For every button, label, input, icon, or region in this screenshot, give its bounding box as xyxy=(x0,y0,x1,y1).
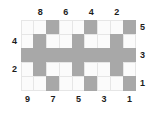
left-label-row-4: 2 xyxy=(3,65,17,74)
grid-cell xyxy=(123,62,137,77)
bottom-label-col-1: 9 xyxy=(21,95,34,104)
grid-cell xyxy=(84,76,98,91)
grid-cell xyxy=(110,34,124,49)
grid-cell xyxy=(72,76,86,91)
top-label-col-8: 2 xyxy=(110,8,123,17)
grid-cell xyxy=(72,62,86,77)
grid-cell xyxy=(33,62,47,77)
grid-cell xyxy=(123,48,137,63)
grid-cell xyxy=(97,20,111,35)
grid-cell xyxy=(97,62,111,77)
grid-cell xyxy=(46,34,60,49)
grid-cell xyxy=(33,76,47,91)
grid-cell xyxy=(59,48,73,63)
top-label-col-6: 4 xyxy=(85,8,98,17)
right-label-row-1: 5 xyxy=(140,23,154,32)
grid-cell xyxy=(72,48,86,63)
top-label-col-4: 6 xyxy=(59,8,72,17)
right-label-row-3: 3 xyxy=(140,51,154,60)
grid-cell xyxy=(123,34,137,49)
grid-cell xyxy=(21,48,35,63)
grid-cell xyxy=(110,76,124,91)
grid-cell xyxy=(72,34,86,49)
grid-cell xyxy=(59,20,73,35)
bottom-label-col-7: 3 xyxy=(98,95,111,104)
grid-cell xyxy=(123,76,137,91)
grid-cell xyxy=(72,20,86,35)
grid-cell xyxy=(84,20,98,35)
grid-cell xyxy=(97,76,111,91)
grid-cell xyxy=(110,20,124,35)
grid-cell xyxy=(46,20,60,35)
grid-cell xyxy=(21,20,35,35)
top-label-col-2: 8 xyxy=(34,8,47,17)
grid-cell xyxy=(46,62,60,77)
bottom-label-col-9: 1 xyxy=(123,95,136,104)
left-label-row-2: 4 xyxy=(3,37,17,46)
grid-cell xyxy=(84,34,98,49)
grid-cell xyxy=(33,48,47,63)
bottom-label-col-3: 7 xyxy=(47,95,60,104)
grid-cell xyxy=(123,20,137,35)
grid-cell xyxy=(59,34,73,49)
right-label-row-5: 1 xyxy=(140,79,154,88)
grid-cell xyxy=(33,20,47,35)
grid-diagram: 86429753142531 xyxy=(0,0,162,117)
grid-cell xyxy=(110,48,124,63)
grid-cell xyxy=(110,62,124,77)
grid-cell xyxy=(21,76,35,91)
grid-cell xyxy=(59,76,73,91)
grid-cell xyxy=(84,48,98,63)
grid-cell xyxy=(97,34,111,49)
grid-cell xyxy=(33,34,47,49)
grid-cell xyxy=(97,48,111,63)
cell-grid xyxy=(21,20,136,90)
grid-cell xyxy=(84,62,98,77)
grid-cell xyxy=(46,76,60,91)
grid-cell xyxy=(21,34,35,49)
grid-cell xyxy=(21,62,35,77)
grid-cell xyxy=(59,62,73,77)
bottom-label-col-5: 5 xyxy=(72,95,85,104)
grid-cell xyxy=(46,48,60,63)
